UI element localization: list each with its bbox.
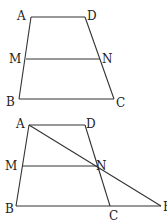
figure-1-trapezoid: A D M N B C (6, 9, 125, 110)
label-m: M (9, 52, 21, 66)
label-b: B (6, 95, 15, 109)
label-n: N (96, 159, 107, 173)
label-a: A (16, 9, 26, 23)
label-d: D (86, 117, 96, 131)
label-c: C (109, 209, 118, 223)
label-m: M (5, 159, 17, 173)
label-c: C (116, 96, 125, 110)
label-b: B (5, 202, 14, 216)
label-e: E (163, 200, 167, 214)
label-n: N (102, 52, 113, 66)
label-d: D (87, 9, 97, 23)
trapezoid-diagrams: A D M N B C A D M N B C E (0, 0, 167, 223)
figure-2-trapezoid-extended: A D M N B C E (5, 117, 167, 223)
label-a: A (15, 117, 25, 131)
